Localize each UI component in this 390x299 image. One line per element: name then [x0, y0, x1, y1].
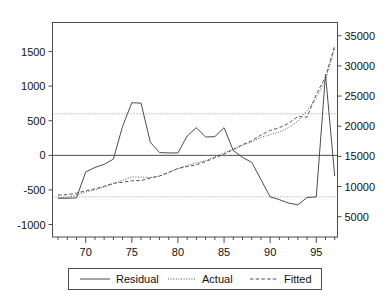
- chart-legend: ResidualActualFitted: [69, 269, 322, 290]
- right-tick-label: 35000: [345, 30, 376, 42]
- x-tick-label: 80: [172, 246, 184, 258]
- x-tick-label: 85: [218, 246, 230, 258]
- left-tick-label: 500: [27, 115, 45, 127]
- left-tick-label: 0: [39, 149, 45, 161]
- legend-label-fitted: Fitted: [284, 273, 312, 285]
- right-tick-label: 5000: [345, 211, 369, 223]
- right-tick-label: 30000: [345, 60, 376, 72]
- left-tick-label: -1000: [17, 219, 45, 231]
- x-tick-label: 70: [80, 246, 92, 258]
- left-tick-label: 1000: [21, 80, 45, 92]
- chart-canvas: -1000-500050010001500 500010000150002000…: [0, 0, 390, 299]
- right-tick-label: 10000: [345, 181, 376, 193]
- x-tick-label: 75: [126, 246, 138, 258]
- left-tick-label: 1500: [21, 46, 45, 58]
- residual-plot-chart: -1000-500050010001500 500010000150002000…: [0, 0, 390, 299]
- x-tick-label: 90: [264, 246, 276, 258]
- legend-label-actual: Actual: [202, 273, 233, 285]
- legend-label-residual: Residual: [116, 273, 159, 285]
- right-tick-label: 25000: [345, 90, 376, 102]
- right-tick-label: 15000: [345, 150, 376, 162]
- chart-background: [0, 0, 390, 299]
- x-tick-label: 95: [310, 246, 322, 258]
- right-tick-label: 20000: [345, 120, 376, 132]
- left-tick-label: -500: [23, 184, 45, 196]
